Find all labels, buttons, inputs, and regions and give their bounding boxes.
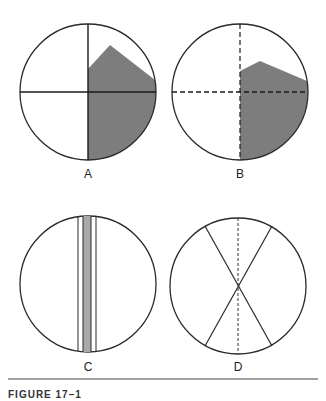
panel-a-shaded-region bbox=[88, 45, 156, 160]
panel-b-shaded-region bbox=[240, 61, 308, 160]
panel-b: B bbox=[172, 24, 308, 181]
figure-caption: FIGURE 17–1 bbox=[8, 389, 82, 400]
figure-diagram: A B C D bbox=[0, 0, 326, 401]
panel-c-shaded-strip bbox=[83, 216, 91, 352]
panel-b-label: B bbox=[236, 167, 244, 181]
panel-c: C bbox=[20, 216, 156, 374]
panel-d-label: D bbox=[234, 360, 243, 374]
panel-d: D bbox=[170, 218, 306, 374]
panel-a: A bbox=[20, 24, 156, 181]
panel-a-label: A bbox=[84, 167, 92, 181]
panel-c-label: C bbox=[84, 360, 93, 374]
